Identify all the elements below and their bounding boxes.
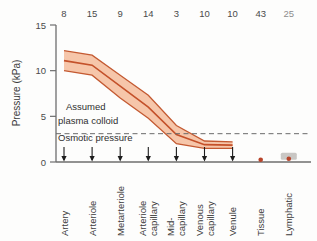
- top-value-3: 14: [143, 8, 154, 19]
- x-category-label-0: Artery: [59, 210, 70, 236]
- tissue-pressure-dot: [258, 157, 263, 162]
- annotation-line-2: plasma colloid: [58, 115, 118, 126]
- top-value-2: 9: [118, 8, 123, 19]
- y-axis-title-text: Pressure (kPa): [11, 60, 22, 127]
- top-value-row: 815914310104325: [61, 8, 294, 19]
- pressure-profile-chart: Pressure (kPa) 051015 815914310104325 As…: [0, 0, 317, 241]
- x-category-label-4: Mid-: [165, 218, 176, 236]
- top-value-8: 25: [284, 8, 295, 19]
- top-value-0: 8: [61, 8, 66, 19]
- annotation-line-1: Assumed: [66, 101, 106, 112]
- y-tick-label: 15: [35, 20, 46, 31]
- x-category-label-3: Arteriole: [137, 201, 148, 236]
- x-category-label-7: Tissue: [255, 208, 266, 236]
- annotation-line-3: Osmotic pressure: [58, 132, 132, 143]
- x-category-label-3: capillary: [148, 201, 159, 236]
- x-category-label-5: capillary: [205, 201, 216, 236]
- x-category-label-6: Venule: [227, 207, 238, 236]
- top-value-6: 10: [227, 8, 238, 19]
- top-value-1: 15: [87, 8, 98, 19]
- y-tick-label: 10: [35, 65, 46, 76]
- x-category-label-5: Venous: [194, 204, 205, 236]
- x-category-label-8: Lymphatic: [283, 193, 294, 236]
- x-category-label-1: Arteriole: [87, 201, 98, 236]
- chart-canvas: Pressure (kPa) 051015 815914310104325 As…: [0, 0, 317, 241]
- y-axis-title: Pressure (kPa): [11, 60, 22, 127]
- x-category-label-2: Metarteriole: [115, 186, 126, 236]
- top-value-5: 10: [199, 8, 210, 19]
- x-category-label-4: capillary: [176, 201, 187, 236]
- y-tick-label: 0: [41, 157, 46, 168]
- top-value-4: 3: [174, 8, 179, 19]
- lymphatic-pressure-dot: [287, 157, 292, 162]
- y-tick-label: 5: [41, 111, 46, 122]
- top-value-7: 43: [255, 8, 266, 19]
